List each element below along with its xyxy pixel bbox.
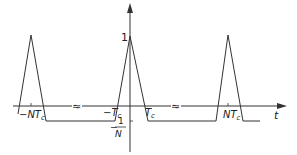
autocorrelation-diagram: ≈ ≈ 1 −NTc −Tc Tc NTc t − 1 N: [0, 0, 297, 155]
floor-label-numerator: 1: [118, 116, 124, 126]
label-pos-NTc: NTc: [223, 109, 241, 122]
break-mark-left: ≈: [72, 100, 81, 113]
y-axis-arrow-icon: [127, 3, 133, 13]
break-mark-right: ≈: [171, 100, 180, 113]
peak-value-label: 1: [121, 31, 128, 44]
label-pos-Tc: Tc: [145, 107, 155, 120]
x-axis-arrow-icon: [277, 103, 287, 109]
floor-label-denominator: N: [115, 129, 122, 139]
x-axis-label: t: [274, 109, 279, 122]
label-neg-NTc: −NTc: [19, 109, 45, 122]
